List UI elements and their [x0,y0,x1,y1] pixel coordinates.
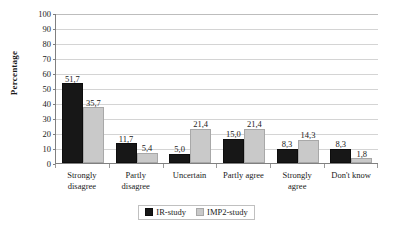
x-axis-label: Partlydisagree [109,170,163,191]
y-axis-title: Percentage [9,33,23,113]
bar: 1,8 [351,158,372,163]
x-tick [216,164,270,168]
bar-group: 51,735,7 [56,14,110,163]
bar: 51,7 [62,83,83,163]
x-axis-label-line: Strongly [271,170,323,181]
legend-box: IR-studyIMP2-study [138,205,254,220]
x-axis-label: Uncertain [163,170,217,191]
legend-label: IMP2-study [207,208,248,217]
y-tick-label: 50 [43,85,52,94]
bar-value-label: 5,4 [142,144,153,153]
x-axis-label-line: Don't know [325,170,377,181]
plot-area: 1009080706050403020100 51,735,711,75,45,… [55,14,378,164]
bar: 21,4 [244,129,265,163]
x-axis-label-line: Partly [110,170,162,181]
x-axis-label: Partly agree [216,170,270,191]
x-axis-ticks [55,164,378,168]
legend-item[interactable]: IR-study [145,208,186,217]
y-tick-label: 20 [43,130,52,139]
bar-value-label: 35,7 [86,99,101,108]
bar-groups: 51,735,711,75,45,021,415,021,48,314,38,3… [56,14,378,163]
x-axis-label-line: disagree [110,181,162,192]
bar: 15,0 [223,139,244,164]
x-axis-label: Stronglyagree [270,170,324,191]
bar-value-label: 1,8 [356,150,367,159]
x-axis-label-line: Strongly [56,170,108,181]
x-tick [324,164,378,168]
bar: 35,7 [83,107,104,163]
bar-value-label: 8,3 [282,140,293,149]
y-tick-label: 30 [43,115,52,124]
y-tick-label: 60 [43,70,52,79]
bar-value-label: 8,3 [335,140,346,149]
bar-value-label: 5,0 [174,145,185,154]
y-tick-label: 0 [47,160,51,169]
y-tick-label: 100 [38,10,51,19]
bar: 5,0 [169,154,190,164]
x-tick [270,164,324,168]
legend: IR-studyIMP2-study [0,205,393,220]
bar-group: 5,021,4 [163,14,217,163]
bar: 11,7 [116,143,137,163]
legend-item[interactable]: IMP2-study [196,208,248,217]
legend-label: IR-study [156,208,186,217]
y-tick-label: 10 [43,145,52,154]
bar-value-label: 21,4 [193,120,208,129]
bar-group: 15,021,4 [217,14,271,163]
bar: 14,3 [298,140,319,163]
bar: 21,4 [190,129,211,163]
x-tick [109,164,163,168]
x-axis-label-line: disagree [56,181,108,192]
bar-chart: Percentage 1009080706050403020100 51,735… [0,0,393,236]
x-axis-label-line: Partly agree [217,170,269,181]
bar: 8,3 [330,149,351,163]
x-axis-label-line: agree [271,181,323,192]
bar: 5,4 [137,153,158,163]
x-tick [55,164,109,168]
x-axis-label: Stronglydisagree [55,170,109,191]
bar-value-label: 51,7 [65,75,80,84]
bar-group: 8,31,8 [324,14,378,163]
y-tick-label: 80 [43,40,52,49]
x-tick [163,164,217,168]
bar-group: 8,314,3 [271,14,325,163]
y-tick-label: 90 [43,25,52,34]
x-axis-labels: StronglydisagreePartlydisagreeUncertainP… [55,170,378,191]
y-tick-label: 70 [43,55,52,64]
bar-group: 11,75,4 [110,14,164,163]
y-tick-label: 40 [43,100,52,109]
legend-swatch [145,208,153,216]
x-axis-label-line: Uncertain [164,170,216,181]
bar-value-label: 11,7 [119,135,134,144]
legend-swatch [196,208,204,216]
bar-value-label: 15,0 [226,130,241,139]
x-axis-label: Don't know [324,170,378,191]
bar: 8,3 [277,149,298,163]
bar-value-label: 14,3 [301,131,316,140]
bar-value-label: 21,4 [247,120,262,129]
